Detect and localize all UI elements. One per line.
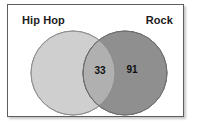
count-intersection: 33 [89,65,111,76]
diagram-frame: Hip Hop Rock 33 91 [7,4,184,117]
set-label-hip-hop: Hip Hop [22,14,65,26]
set-label-rock: Rock [146,14,173,26]
count-rock-only: 91 [121,64,143,75]
venn-diagram-figure: Hip Hop Rock 33 91 [0,0,197,128]
